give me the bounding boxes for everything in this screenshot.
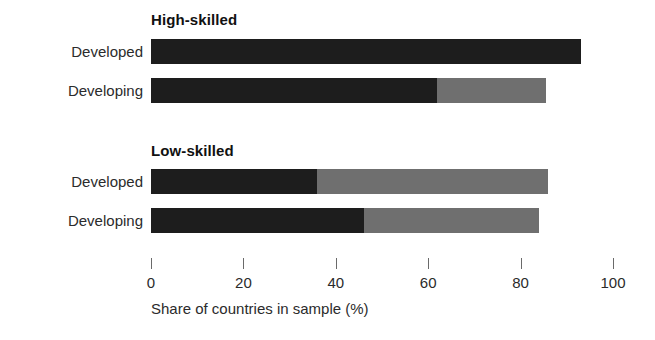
bar-segment-light [364, 208, 540, 233]
bar-low-developing [151, 208, 539, 233]
bar-high-developing [151, 78, 546, 103]
x-axis: 020406080100 [151, 258, 613, 259]
x-axis-tick-mark [613, 258, 614, 269]
x-axis-tick-label: 60 [420, 274, 437, 291]
bar-high-developed [151, 39, 581, 64]
group-title-low-skilled: Low-skilled [151, 142, 234, 159]
category-label-high-developing: Developing [8, 82, 143, 99]
bar-segment-dark [151, 208, 364, 233]
x-axis-tick-label: 40 [327, 274, 344, 291]
x-axis-tick-label: 20 [235, 274, 252, 291]
bar-chart: High-skilled Low-skilled Developed Devel… [0, 0, 655, 340]
category-label-low-developed: Developed [8, 173, 143, 190]
x-axis-tick-label: 80 [512, 274, 529, 291]
category-label-high-developed: Developed [8, 43, 143, 60]
category-label-low-developing: Developing [8, 212, 143, 229]
x-axis-tick-mark [336, 258, 337, 269]
bar-segment-dark [151, 78, 437, 103]
x-axis-tick-mark [151, 258, 152, 269]
bar-segment-light [317, 169, 548, 194]
group-title-high-skilled: High-skilled [151, 11, 237, 28]
x-axis-title: Share of countries in sample (%) [151, 300, 369, 317]
bar-segment-dark [151, 169, 317, 194]
x-axis-tick-mark [521, 258, 522, 269]
x-axis-tick-label: 100 [600, 274, 625, 291]
x-axis-tick-mark [428, 258, 429, 269]
bar-low-developed [151, 169, 548, 194]
x-axis-tick-mark [243, 258, 244, 269]
bar-segment-dark [151, 39, 581, 64]
x-axis-tick-label: 0 [147, 274, 155, 291]
bar-segment-light [437, 78, 546, 103]
